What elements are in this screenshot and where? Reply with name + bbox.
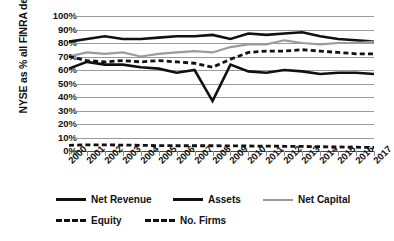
series-lines	[69, 16, 374, 151]
y-axis-title: NYSE as % all FINRA dealers	[17, 0, 29, 119]
chart-legend: Net RevenueAssetsNet Capital EquityNo. F…	[0, 191, 383, 231]
legend-swatch-icon	[56, 198, 86, 201]
legend-swatch-icon	[263, 199, 293, 201]
x-tick-label: 2017	[371, 143, 394, 166]
legend-row-1: Net RevenueAssetsNet Capital	[0, 191, 383, 208]
legend-item[interactable]: No. Firms	[145, 212, 226, 229]
legend-item[interactable]: Assets	[173, 191, 241, 208]
legend-item[interactable]: Net Revenue	[56, 191, 152, 208]
legend-label: Assets	[208, 194, 241, 205]
legend-row-2: EquityNo. Firms	[0, 212, 383, 229]
legend-swatch-icon	[173, 198, 203, 201]
legend-label: No. Firms	[180, 215, 226, 226]
legend-label: Net Revenue	[91, 194, 152, 205]
legend-label: Equity	[91, 215, 122, 226]
legend-item[interactable]: Net Capital	[263, 191, 350, 208]
series-line-assets	[69, 32, 374, 41]
legend-swatch-icon	[56, 219, 86, 222]
series-line-net-revenue	[69, 62, 374, 101]
legend-swatch-icon	[145, 219, 175, 222]
legend-item[interactable]: Equity	[56, 212, 122, 229]
series-line-net-capital	[69, 40, 374, 56]
plot-area	[69, 16, 374, 151]
legend-label: Net Capital	[298, 194, 350, 205]
